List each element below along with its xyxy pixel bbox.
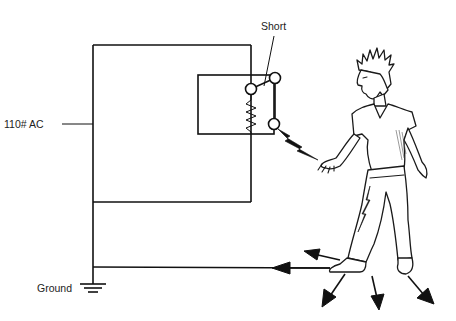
ground-symbol: Ground [37, 282, 106, 294]
short-label: Short [261, 20, 286, 32]
housing-terminal [269, 119, 280, 130]
ac-source-lead: 110# AC [4, 118, 93, 130]
switch-terminal-right [270, 73, 281, 84]
pants [348, 166, 412, 262]
arrow-left-long [272, 262, 290, 274]
shock-hazard-diagram: 110# AC Short Ground [0, 0, 456, 321]
shock-bolt-hand [278, 129, 318, 160]
ground-label: Ground [37, 282, 72, 294]
left-arm [321, 134, 360, 169]
right-arm [404, 128, 427, 178]
outer-circuit [93, 45, 251, 284]
person-illustration [318, 48, 427, 274]
switch-terminal-left [246, 84, 257, 95]
arrow-down [371, 294, 384, 310]
arrow-left-upper [304, 249, 320, 260]
right-foot [397, 258, 412, 274]
ac-source-label: 110# AC [4, 118, 44, 130]
